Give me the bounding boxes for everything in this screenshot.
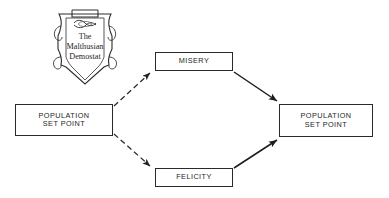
node-label-line-1: FELICITY: [176, 173, 212, 181]
edge-felicity-to-right: [234, 140, 277, 168]
malthusian-demostat-emblem: The Malthusian Demostat: [48, 5, 122, 87]
malthusian-demostat-figure: The Malthusian Demostat POPULATION SET P…: [0, 0, 389, 198]
edge-misery-to-right: [234, 72, 277, 101]
node-label-line-2: SET POINT: [43, 120, 85, 128]
edge-left-to-felicity: [114, 134, 150, 166]
node-population-set-point-right: POPULATION SET POINT: [279, 104, 373, 137]
node-label-line-1: MISERY: [179, 57, 210, 65]
node-felicity: FELICITY: [155, 168, 233, 187]
node-population-set-point-left: POPULATION SET POINT: [15, 104, 113, 136]
shield-icon: [48, 5, 122, 87]
node-misery: MISERY: [155, 52, 233, 71]
node-label-line-2: SET POINT: [305, 121, 347, 129]
